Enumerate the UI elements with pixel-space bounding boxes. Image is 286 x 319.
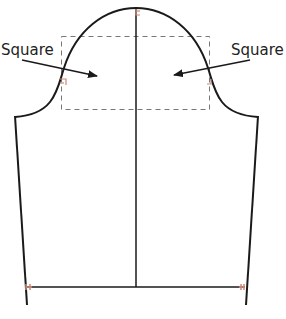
sleeve-diagram: Square Square [0,0,286,319]
square-marker-top [136,9,140,15]
label-left-square: Square [1,41,54,59]
square-marker-hem-right [239,284,245,290]
arrow-left [22,60,97,76]
right-side-seam [246,116,258,305]
label-right-square: Square [231,41,284,59]
arrow-right [174,60,250,75]
left-side-seam [15,116,27,305]
